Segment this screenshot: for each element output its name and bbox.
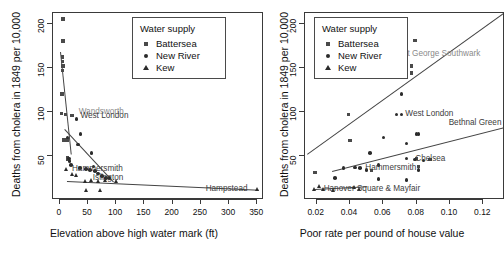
y-axis-title: Deaths from cholera in 1849 per 10,000	[278, 12, 290, 197]
point-label: West London	[80, 111, 128, 120]
legend-item-label: Kew	[156, 62, 174, 73]
x-tick-label: 0.10	[431, 207, 467, 217]
circle-marker	[405, 142, 409, 146]
triangle-marker	[140, 65, 152, 70]
circle-marker	[377, 177, 381, 181]
triangle-marker	[312, 187, 316, 191]
square-marker	[140, 42, 152, 46]
x-axis-line	[59, 199, 256, 200]
point-label: Chelsea	[415, 154, 445, 163]
triangle-marker	[84, 188, 88, 192]
x-axis-line	[316, 199, 483, 200]
y-axis-title: Deaths from cholera in 1849 per 10,000	[10, 12, 22, 197]
point-label: Hanover Square & Mayfair	[324, 184, 420, 193]
y-tick-label: 200	[288, 18, 298, 32]
triangle-marker	[143, 65, 149, 70]
x-tick-label: 0.02	[298, 207, 334, 217]
legend-title: Water supply	[322, 23, 400, 34]
y-tick-label: 50	[288, 155, 298, 164]
circle-marker	[342, 166, 346, 170]
x-tick-label: 0.12	[464, 207, 500, 217]
legend-left: Water supplyBatterseaNew RiverKew	[132, 17, 226, 79]
square-marker	[410, 71, 413, 74]
circle-marker	[353, 166, 357, 170]
circle-marker	[405, 178, 409, 182]
point-label: Hammersmith	[72, 164, 123, 173]
x-tick-mark	[256, 199, 257, 204]
legend-title: Water supply	[140, 23, 218, 34]
circle-marker	[395, 113, 399, 117]
triangle-marker	[74, 173, 78, 177]
circle-marker	[90, 151, 94, 155]
circle-marker	[79, 132, 83, 136]
square-marker	[347, 113, 350, 116]
legend-item-label: Battersea	[156, 38, 197, 49]
y-tick-label: 100	[36, 107, 46, 121]
x-tick-label: 0.04	[331, 207, 367, 217]
triangle-marker	[325, 65, 331, 70]
square-marker	[61, 17, 64, 20]
square-marker	[61, 64, 64, 67]
y-tick-label: 100	[288, 107, 298, 121]
square-marker	[61, 69, 64, 72]
x-axis-title: Poor rate per pound of house value	[268, 227, 496, 239]
circle-marker	[75, 117, 79, 121]
y-tick-label: 50	[36, 155, 46, 164]
circle-marker	[333, 176, 337, 180]
y-tick-label: 200	[36, 18, 46, 32]
legend-item-kew[interactable]: Kew	[140, 62, 218, 73]
circle-marker	[382, 136, 386, 140]
point-label: Hammersmith	[365, 163, 416, 172]
x-tick-label: 0.08	[398, 207, 434, 217]
y-tick-label: 150	[36, 63, 46, 77]
circle-marker	[76, 143, 80, 147]
legend-item-label: Battersea	[338, 38, 379, 49]
circle-marker	[368, 151, 372, 155]
point-label: Islington	[93, 173, 124, 182]
circle-marker	[358, 166, 362, 170]
legend-item-label: New River	[338, 50, 382, 61]
circle-marker	[400, 92, 404, 96]
legend-right: Water supplyBatterseaNew RiverKew	[314, 17, 408, 79]
square-marker	[60, 112, 63, 115]
circle-marker	[326, 54, 330, 58]
chart-panel-left: Deaths from cholera in 1849 per 10,00050…	[0, 0, 268, 257]
triangle-marker	[98, 188, 102, 192]
square-marker	[70, 114, 73, 117]
x-tick-mark	[482, 199, 483, 204]
square-marker	[64, 113, 67, 116]
legend-item-label: Kew	[338, 62, 356, 73]
x-tick-label: 0.06	[364, 207, 400, 217]
square-marker	[410, 64, 413, 67]
circle-marker	[322, 54, 334, 58]
point-label: St George Southwark	[402, 49, 480, 58]
legend-item-kew[interactable]: Kew	[322, 62, 400, 73]
triangle-marker	[64, 167, 68, 171]
triangle-marker	[255, 187, 259, 191]
square-marker	[313, 171, 316, 174]
legend-item-battersea[interactable]: Battersea	[140, 38, 218, 49]
legend-item-new-river[interactable]: New River	[322, 50, 400, 61]
circle-marker	[417, 132, 421, 136]
point-label: Bethnal Green	[449, 118, 502, 127]
legend-item-new-river[interactable]: New River	[140, 50, 218, 61]
legend-item-battersea[interactable]: Battersea	[322, 38, 400, 49]
point-label: Hampstead	[206, 184, 248, 193]
y-tick-label: 150	[288, 63, 298, 77]
triangle-marker	[322, 65, 334, 70]
square-marker	[61, 39, 64, 42]
square-marker	[326, 42, 330, 46]
legend-item-label: New River	[156, 50, 200, 61]
square-marker	[61, 60, 64, 63]
x-axis-title: Elevation above high water mark (ft)	[0, 227, 268, 239]
circle-marker	[144, 54, 148, 58]
point-label: West London	[405, 109, 453, 118]
circle-marker	[417, 168, 421, 172]
square-marker	[322, 42, 334, 46]
square-marker	[413, 39, 416, 42]
square-marker	[60, 92, 63, 95]
square-marker	[144, 42, 148, 46]
chart-panel-right: Deaths from cholera in 1849 per 10,00050…	[268, 0, 496, 257]
circle-marker	[405, 157, 409, 161]
